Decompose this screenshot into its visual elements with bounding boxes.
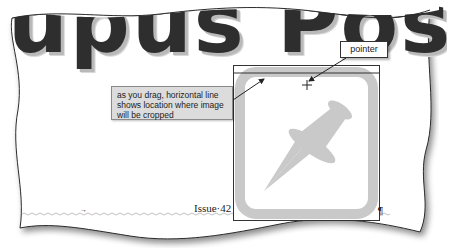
tab-mark-icon: → xyxy=(80,206,87,213)
crop-line-callout: as you drag, horizontal line shows locat… xyxy=(111,86,233,120)
issue-number-text[interactable]: Issue·42 xyxy=(194,202,231,214)
paragraph-mark-icon: ¶ xyxy=(378,204,383,216)
pointer-callout: pointer xyxy=(340,41,388,58)
